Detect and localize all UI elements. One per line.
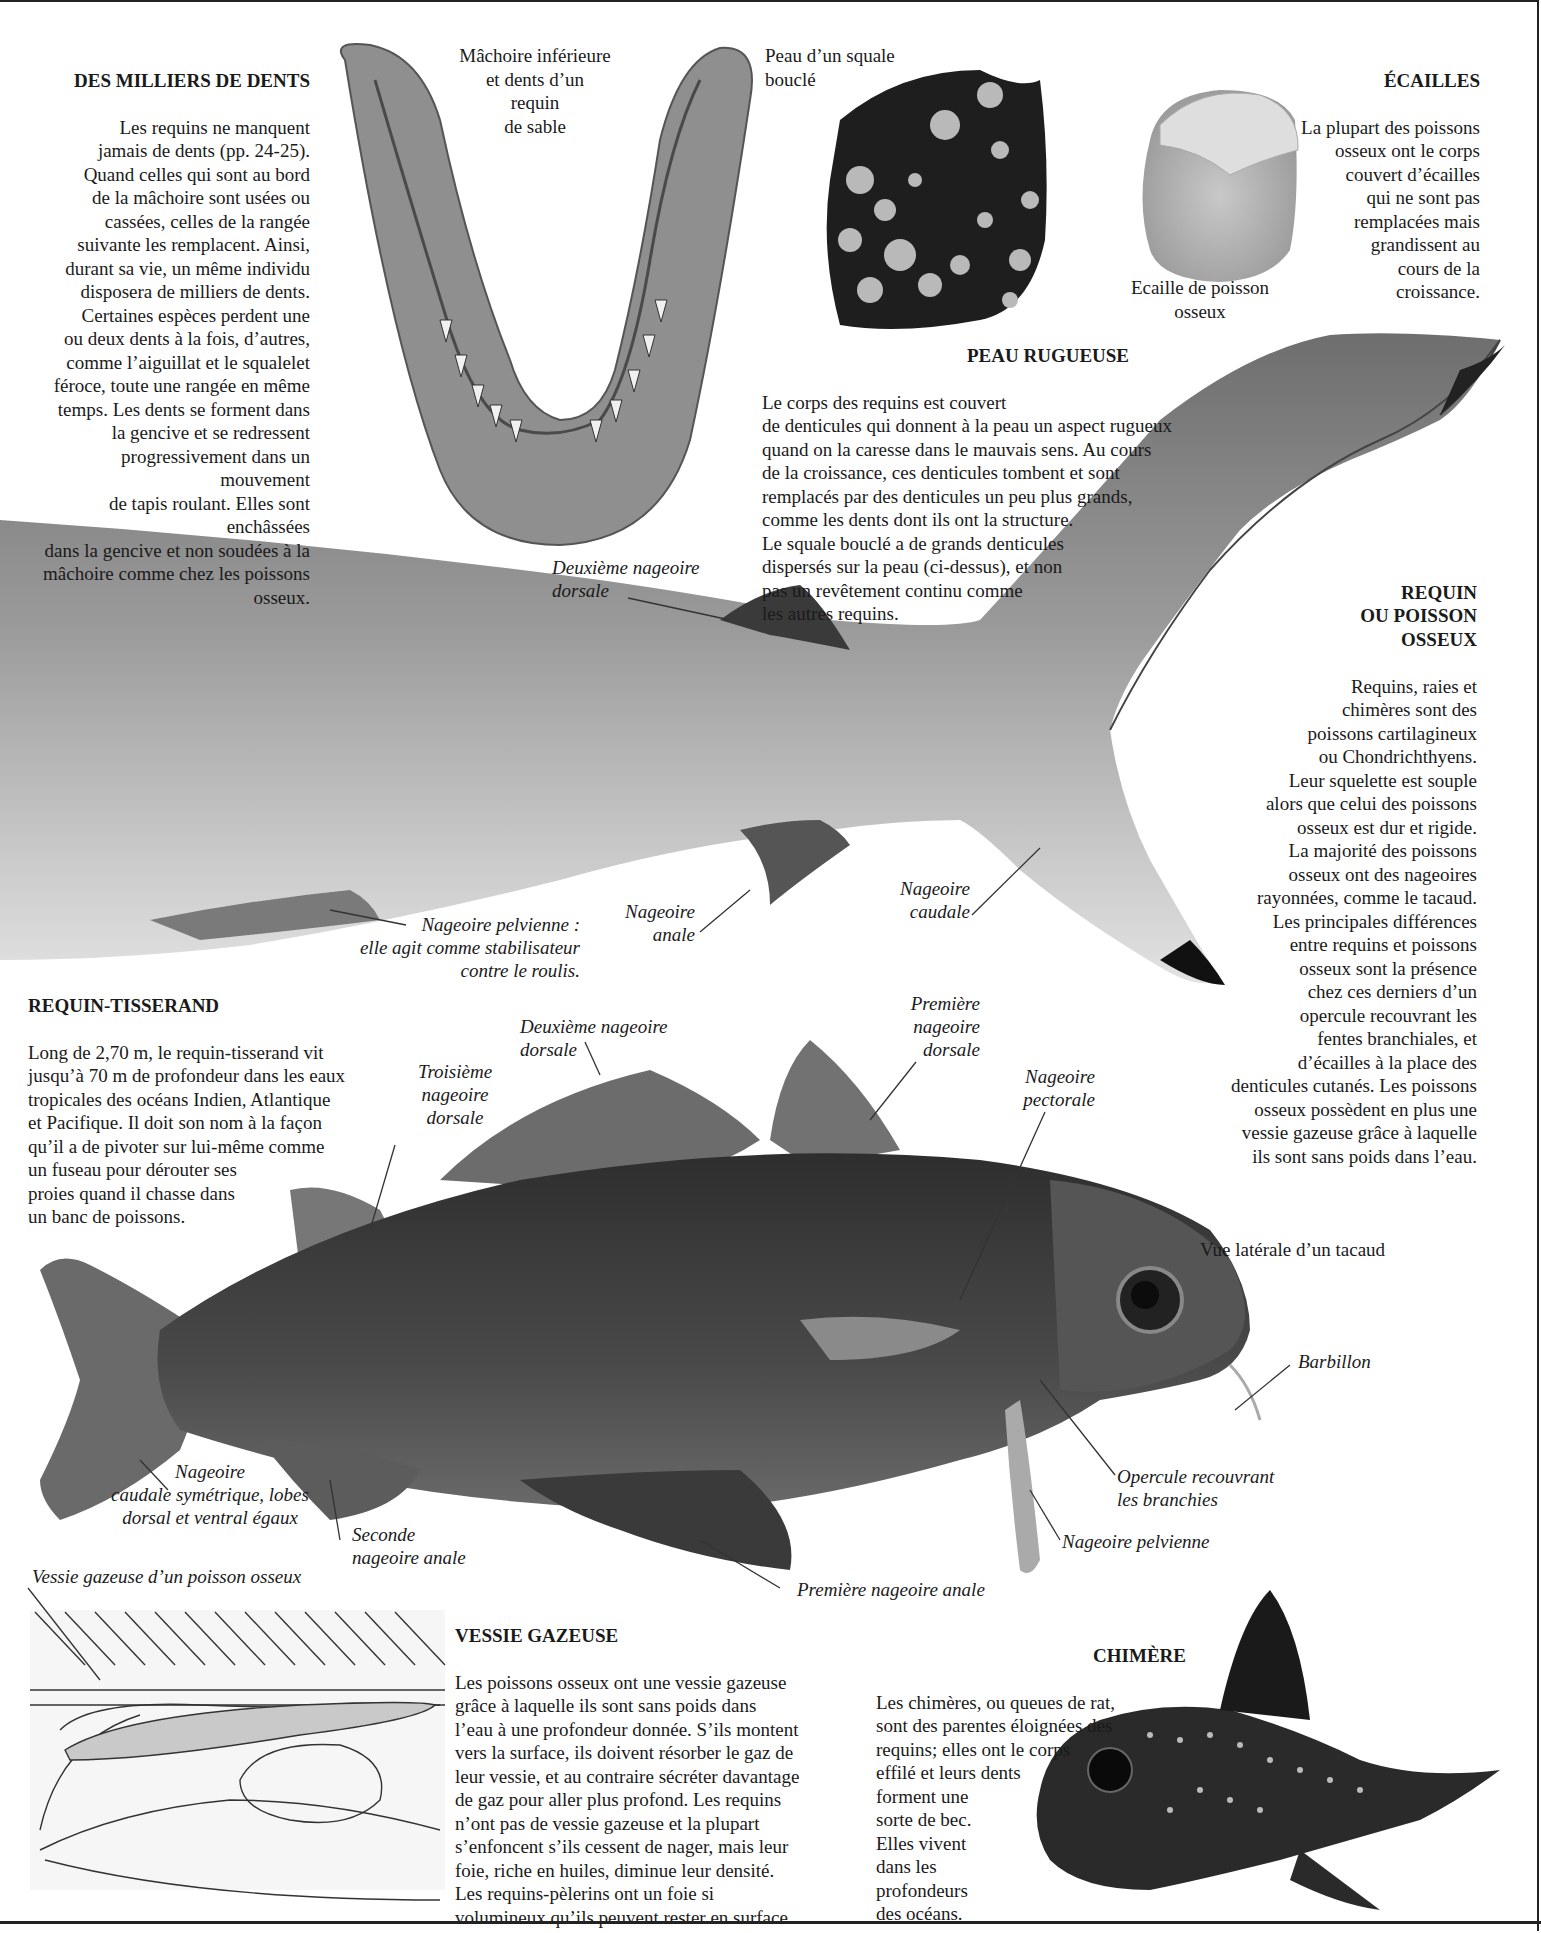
shark-label-pelvic: Nageoire pelvienne : elle agit comme sta… [320, 913, 580, 982]
skin-caption: Peau d’un squale bouclé [765, 44, 935, 91]
shark-or-bony-heading: REQUIN OU POISSON OSSEUX [1200, 581, 1477, 652]
scales-heading: ÉCAILLES [1250, 69, 1480, 93]
pout-caption: Vue latérale d’un tacaud [1200, 1238, 1460, 1262]
teeth-body: Les requins ne manquent jamais de dents … [43, 117, 310, 608]
fish-label-second-anal: Seconde nageoire anale [352, 1523, 502, 1569]
bladder-caption: Vessie gazeuse d’un poisson osseux [32, 1565, 392, 1588]
fish-label-first-anal: Première nageoire anale [797, 1578, 1017, 1601]
spinner-shark-body: Long de 2,70 m, le requin-tisserand vit … [28, 1042, 345, 1228]
swim-bladder-body: Les poissons osseux ont une vessie gazeu… [455, 1672, 799, 1928]
fish-label-pelvic: Nageoire pelvienne [1062, 1530, 1262, 1553]
chimaera-section: CHIMÈRE Les chimères, ou queues de rat, … [876, 1620, 1186, 1926]
scales-section: ÉCAILLES La plupart des poissons osseux … [1250, 45, 1480, 304]
rough-skin-heading: PEAU RUGUEUSE [762, 344, 1282, 368]
shark-label-caudal: Nageoire caudale [860, 877, 970, 923]
chimaera-heading: CHIMÈRE [876, 1644, 1186, 1668]
swim-bladder-heading: VESSIE GAZEUSE [455, 1624, 865, 1648]
spinner-shark-section: REQUIN-TISSERAND Long de 2,70 m, le requ… [28, 970, 408, 1229]
jaw-caption: Mâchoire inférieure et dents d’un requin… [445, 44, 625, 138]
spinner-shark-heading: REQUIN-TISSERAND [28, 994, 408, 1018]
shark-label-anal: Nageoire anale [590, 900, 695, 946]
scale-caption: Ecaille de poisson osseux [1100, 276, 1300, 323]
shark-skin-illustration [827, 70, 1047, 329]
scales-body: La plupart des poissons osseux ont le co… [1301, 117, 1480, 303]
shark-or-bony-body: Requins, raies et chimères sont des pois… [1231, 676, 1477, 1167]
rough-skin-body: Le corps des requins est couvert de dent… [762, 392, 1172, 625]
swim-bladder-diagram [30, 1610, 445, 1900]
fish-label-caudal: Nageoire caudale symétrique, lobes dorsa… [90, 1460, 330, 1529]
fish-label-operculum: Opercule recouvrant les branchies [1117, 1465, 1337, 1511]
bottom-rule [0, 1921, 1541, 1924]
shark-or-bony-section: REQUIN OU POISSON OSSEUX Requins, raies … [1200, 557, 1477, 1168]
fish-label-second-dorsal: Deuxième nageoire dorsale [520, 1015, 720, 1061]
fish-label-first-dorsal: Première nageoire dorsale [840, 992, 980, 1061]
fish-label-pectoral: Nageoire pectorale [970, 1065, 1095, 1111]
shark-label-second-dorsal: Deuxième nageoire dorsale [552, 556, 752, 602]
fish-label-third-dorsal: Troisième nageoire dorsale [400, 1060, 510, 1129]
teeth-section: DES MILLIERS DE DENTS Les requins ne man… [30, 45, 310, 609]
fish-label-barbel: Barbillon [1298, 1350, 1418, 1373]
swim-bladder-section: VESSIE GAZEUSE Les poissons osseux ont u… [455, 1600, 865, 1929]
teeth-heading: DES MILLIERS DE DENTS [30, 69, 310, 93]
chimaera-body: Les chimères, ou queues de rat, sont des… [876, 1692, 1115, 1925]
